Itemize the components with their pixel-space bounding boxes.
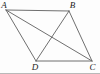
edge-ac xyxy=(6,10,92,61)
geometry-figure: A B C D xyxy=(0,0,100,74)
quadrilateral-diagram: A B C D xyxy=(0,0,100,74)
vertex-label-a: A xyxy=(0,0,7,10)
edge-bd xyxy=(36,11,69,61)
edge-ab xyxy=(6,10,69,11)
vertex-label-b: B xyxy=(70,0,76,10)
edge-bc xyxy=(69,11,92,61)
edge-da xyxy=(6,10,36,61)
vertex-label-d: D xyxy=(31,62,39,72)
vertex-label-c: C xyxy=(89,62,96,72)
edges-group xyxy=(6,10,92,61)
